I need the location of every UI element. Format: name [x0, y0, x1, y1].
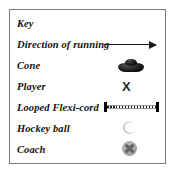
legend-row-cone: Cone	[10, 55, 165, 76]
legend-label-coach: Coach	[17, 139, 46, 160]
legend-row-key: Key	[10, 13, 165, 34]
legend-title: Key	[17, 13, 34, 34]
legend-label-cone: Cone	[17, 55, 40, 76]
coach-icon	[122, 141, 137, 156]
arrow-right-icon	[104, 44, 156, 45]
legend-label-player: Player	[17, 76, 46, 97]
player-x-icon: X	[122, 76, 131, 97]
key-legend-panel: Key Direction of running Cone Player X L…	[9, 9, 166, 164]
legend-symbol-cone	[104, 55, 162, 76]
flexi-cord-icon	[104, 102, 159, 112]
legend-label-hockey-ball: Hockey ball	[17, 118, 70, 139]
legend-row-hockey-ball: Hockey ball	[10, 118, 165, 139]
cone-icon	[118, 59, 144, 72]
hockey-ball-icon	[123, 121, 136, 134]
legend-label-direction-of-running: Direction of running	[17, 34, 109, 55]
legend-symbol-coach	[104, 139, 162, 160]
legend-label-looped-flexi-cord: Looped Flexi-cord	[17, 97, 99, 118]
legend-row-looped-flexi-cord: Looped Flexi-cord	[10, 97, 165, 118]
legend-symbol-hockey-ball	[104, 118, 162, 139]
flexi-cord-end-right	[156, 102, 159, 112]
legend-symbol-looped-flexi-cord	[104, 97, 162, 118]
legend-row-player: Player X	[10, 76, 165, 97]
flexi-cord-line	[107, 105, 156, 109]
legend-row-direction-of-running: Direction of running	[10, 34, 165, 55]
legend-row-coach: Coach	[10, 139, 165, 160]
legend-symbol-direction-of-running	[104, 34, 162, 55]
legend-symbol-player: X	[104, 76, 162, 97]
cone-tip	[125, 59, 137, 66]
